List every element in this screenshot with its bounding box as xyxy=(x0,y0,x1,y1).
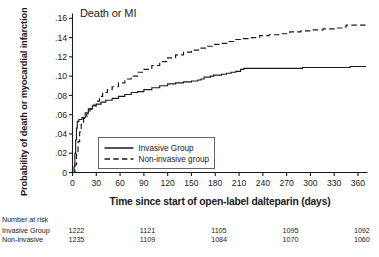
axis-tick-label: 30 xyxy=(92,178,102,188)
axis-tick-label: 60 xyxy=(115,178,125,188)
x-axis-title: Time since start of open-label daltepari… xyxy=(72,196,368,207)
risk-table: Invasive Group 1222 1121 1105 1095 1092 … xyxy=(2,227,379,244)
number-at-risk-block: Number at risk Invasive Group 1222 1121 … xyxy=(2,215,377,244)
axis-tick-label: 330 xyxy=(327,178,342,188)
axis-tick-label: 360 xyxy=(351,178,366,188)
risk-cell: 1109 xyxy=(140,236,211,245)
legend-label-0: Invasive Group xyxy=(139,144,195,153)
axis-tick-label: .08 xyxy=(55,91,67,101)
risk-row-label: Non-invasive xyxy=(2,236,69,245)
axis-tick-label: .06 xyxy=(55,110,67,120)
risk-cell: 1235 xyxy=(69,236,140,245)
risk-table-caption: Number at risk xyxy=(2,215,377,224)
axis-tick-label: .14 xyxy=(55,33,67,43)
axis-tick-label: .04 xyxy=(55,129,67,139)
risk-cell: 1070 xyxy=(283,236,354,245)
axis-tick-label: .10 xyxy=(55,71,67,81)
axis-tick-label: 90 xyxy=(139,178,149,188)
axis-tick-label: 0 xyxy=(62,168,67,178)
risk-cell: 1060 xyxy=(354,236,379,245)
axis-tick-label: .02 xyxy=(55,148,67,158)
survival-curve-figure: Probability of death or myocardial infar… xyxy=(0,0,379,257)
axis-tick-label: 180 xyxy=(208,178,223,188)
axis-tick-label: .16 xyxy=(55,13,67,23)
axis-tick-label: 270 xyxy=(279,178,294,188)
axis-tick-label: 240 xyxy=(256,178,271,188)
axis-tick-label: .12 xyxy=(55,52,67,62)
axis-tick-label: 300 xyxy=(303,178,318,188)
risk-cell: 1084 xyxy=(211,236,282,245)
table-row: Invasive Group 1222 1121 1105 1095 1092 xyxy=(2,227,379,236)
legend-label-1: Non-invasive group xyxy=(139,155,210,164)
axis-tick-label: 0 xyxy=(70,178,75,188)
axis-tick-label: 210 xyxy=(232,178,247,188)
axis-tick-label: 150 xyxy=(184,178,199,188)
kaplan-meier-plot: 0.02.04.06.08.10.12.14.16030609012015018… xyxy=(0,0,379,195)
axis-tick-label: 120 xyxy=(160,178,175,188)
table-row: Non-invasive 1235 1109 1084 1070 1060 xyxy=(2,236,379,245)
